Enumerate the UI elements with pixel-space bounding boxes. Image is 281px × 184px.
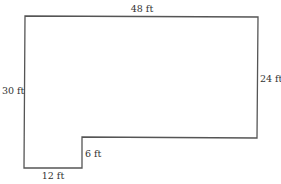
dimension-label-right: 24 ft	[260, 73, 281, 84]
dimension-label-left: 30 ft	[2, 85, 25, 96]
floor-plan-diagram: 48 ft 30 ft 24 ft 6 ft 12 ft	[0, 0, 281, 184]
diagram-canvas: 48 ft 30 ft 24 ft 6 ft 12 ft	[0, 0, 281, 184]
dimension-label-step: 6 ft	[85, 148, 102, 159]
dimension-label-bottom: 12 ft	[42, 170, 65, 181]
dimension-label-top: 48 ft	[131, 3, 154, 14]
floor-plan-outline	[24, 16, 258, 168]
